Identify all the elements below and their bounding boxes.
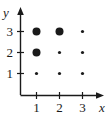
data-point — [58, 51, 61, 54]
x-axis-arrowhead — [96, 92, 104, 99]
scatter-plot-figure: y x 3 2 1 1 2 3 — [0, 0, 112, 120]
data-point — [81, 30, 84, 33]
data-point — [81, 51, 84, 54]
y-tick-label-1: 1 — [2, 67, 13, 80]
x-tick-label-1: 1 — [31, 101, 42, 114]
data-point — [58, 72, 61, 75]
y-tick-label-3: 3 — [2, 25, 13, 38]
data-point — [35, 72, 38, 75]
y-tick-label-2: 2 — [2, 46, 13, 59]
y-axis-label: y — [3, 6, 9, 19]
data-point — [81, 72, 84, 75]
x-tick-label-2: 2 — [54, 101, 65, 114]
data-point — [33, 28, 41, 36]
data-point — [33, 49, 41, 57]
x-axis-label: x — [99, 101, 105, 114]
y-axis-arrowhead — [17, 7, 24, 15]
x-tick-label-3: 3 — [77, 101, 88, 114]
data-point — [56, 28, 64, 36]
data-points-group — [33, 28, 85, 76]
